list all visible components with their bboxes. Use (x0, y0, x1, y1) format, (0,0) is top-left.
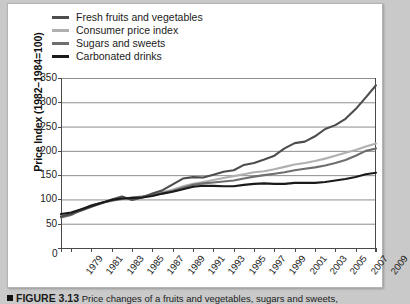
caption-text: Price changes of a fruits and vegetables… (82, 293, 338, 304)
series-line (61, 148, 376, 217)
origin-zero-label: 0 (52, 248, 58, 259)
y-axis-ticks: 50100150200250300350 (29, 4, 57, 289)
y-tick-label: 350 (29, 72, 57, 83)
figure-panel: Fresh fruits and vegetablesConsumer pric… (7, 3, 383, 288)
y-tick-label: 200 (29, 145, 57, 156)
caption-number: FIGURE 3.13 (16, 293, 79, 304)
figure-caption: FIGURE 3.13 Price changes of a fruits an… (7, 293, 383, 304)
caption-marker-icon (7, 295, 13, 301)
y-tick-label: 300 (29, 96, 57, 107)
chart-plot-area: Price Index (1982–1984=100) 501001502002… (8, 4, 384, 289)
line-chart-svg (8, 4, 384, 289)
series-line (61, 144, 376, 216)
y-tick-label: 150 (29, 169, 57, 180)
y-tick-label: 250 (29, 121, 57, 132)
y-tick-label: 50 (29, 218, 57, 229)
y-tick-label: 100 (29, 193, 57, 204)
x-tick-label: 2009 (388, 253, 410, 276)
